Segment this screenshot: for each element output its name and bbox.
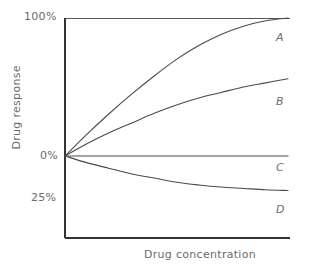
chart-plot-area [0, 0, 312, 269]
curve-b-path [65, 79, 288, 156]
y-tick-label-0: 0% [40, 150, 58, 161]
curve-label-d: D [276, 204, 285, 215]
y-tick-label-25: 25% [31, 192, 56, 203]
curve-label-c: C [276, 162, 284, 173]
y-tick-label-100: 100% [24, 11, 57, 22]
curve-a-path [65, 18, 288, 156]
curve-label-b: B [276, 96, 284, 107]
y-axis-title: Drug response [11, 70, 22, 150]
curve-d-path [65, 156, 288, 191]
x-axis-title: Drug concentration [144, 249, 256, 260]
drug-response-chart: 100% 0% 25% A B C D Drug concentration D… [0, 0, 312, 269]
curve-label-a: A [276, 32, 284, 43]
